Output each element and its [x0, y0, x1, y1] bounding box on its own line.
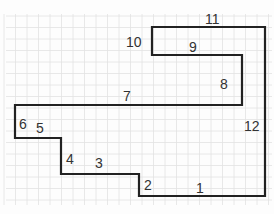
- side-label-11: 11: [205, 11, 220, 27]
- polygon-outline: [15, 27, 265, 196]
- polygon-diagram: 1 2 3 4 5 6 7 8 9 10 11 12: [0, 0, 274, 214]
- side-label-7: 7: [123, 88, 131, 104]
- side-label-8: 8: [220, 76, 228, 92]
- side-label-3: 3: [95, 155, 103, 171]
- grid-paper-figure: 1 2 3 4 5 6 7 8 9 10 11 12: [0, 0, 274, 214]
- side-label-6: 6: [19, 116, 27, 132]
- side-label-1: 1: [196, 180, 204, 196]
- side-label-12: 12: [244, 118, 260, 134]
- side-label-10: 10: [126, 34, 142, 50]
- side-label-4: 4: [66, 151, 74, 167]
- side-label-2: 2: [144, 177, 152, 193]
- side-label-5: 5: [36, 120, 44, 136]
- side-label-9: 9: [189, 39, 197, 55]
